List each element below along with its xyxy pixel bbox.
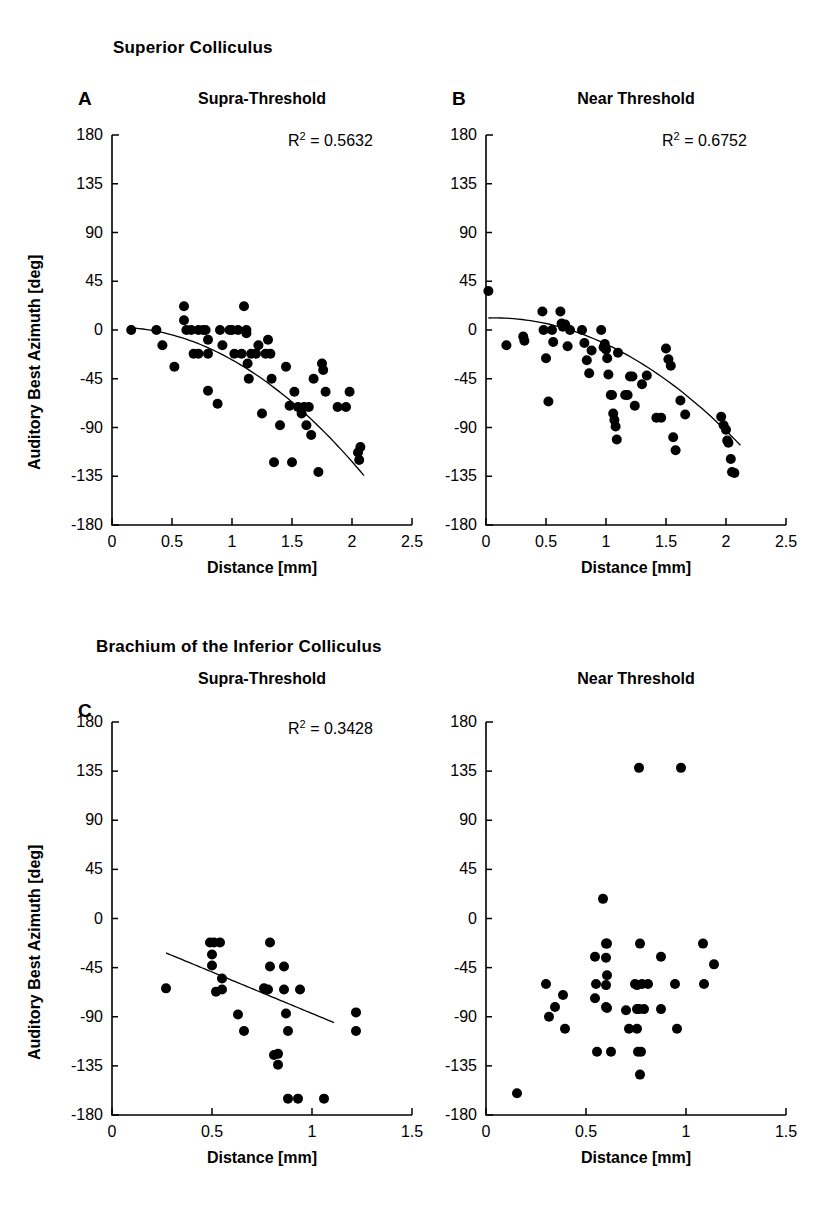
data-point	[217, 974, 227, 984]
data-point	[207, 960, 217, 970]
data-point	[582, 355, 592, 365]
ytick-label: 45	[459, 860, 477, 878]
data-point	[579, 338, 589, 348]
data-point	[642, 371, 652, 381]
data-point	[591, 979, 601, 989]
data-point	[637, 379, 647, 389]
data-point	[483, 286, 493, 296]
data-point	[193, 349, 203, 359]
data-point	[501, 340, 511, 350]
data-point	[729, 468, 739, 478]
plot-canvas-b	[486, 135, 816, 545]
data-point	[243, 359, 253, 369]
ytick-label: 45	[85, 860, 103, 878]
data-point	[251, 349, 261, 359]
ytick-label: 0	[468, 910, 477, 928]
data-point	[602, 1003, 612, 1013]
ytick-label: 135	[450, 762, 477, 780]
ytick-label: 45	[85, 272, 103, 290]
data-point	[263, 984, 273, 994]
data-point	[215, 938, 225, 948]
data-point	[630, 401, 640, 411]
data-point	[355, 442, 365, 452]
data-point	[341, 402, 351, 412]
data-point	[319, 1094, 329, 1104]
data-point	[283, 1026, 293, 1036]
data-point	[550, 1002, 560, 1012]
data-point	[590, 993, 600, 1003]
plot-canvas-c	[112, 722, 442, 1135]
data-point	[606, 1047, 616, 1057]
data-point	[169, 362, 179, 372]
data-point	[565, 325, 575, 335]
ytick-label: -135	[445, 467, 477, 485]
ytick-label: -135	[445, 1057, 477, 1075]
data-point	[203, 349, 213, 359]
data-point	[217, 340, 227, 350]
data-point	[543, 397, 553, 407]
data-point	[541, 979, 551, 989]
ytick-label: -90	[454, 1008, 477, 1026]
data-point	[287, 457, 297, 467]
data-point	[241, 328, 251, 338]
data-point	[179, 301, 189, 311]
data-point	[269, 457, 279, 467]
data-point	[698, 939, 708, 949]
panel-title-a: Supra-Threshold	[112, 90, 412, 108]
data-point	[273, 1049, 283, 1059]
data-point	[611, 421, 621, 431]
panel-title-d: Near Threshold	[486, 670, 786, 688]
data-point	[239, 301, 249, 311]
data-point	[603, 369, 613, 379]
data-point	[301, 420, 311, 430]
data-point	[726, 454, 736, 464]
section-title-superior-colliculus: Superior Colliculus	[113, 38, 273, 58]
ytick-label: 0	[94, 321, 103, 339]
xaxis-title: Distance [mm]	[486, 559, 786, 577]
yaxis-title-bottom: Auditory Best Azimuth [deg]	[26, 845, 44, 1060]
ytick-label: 90	[459, 224, 477, 242]
scatter-plot-panel-d: 18013590450-45-90-135-18000.511.5Distanc…	[486, 722, 786, 1115]
data-point	[666, 361, 676, 371]
data-point	[676, 763, 686, 773]
ytick-label: 45	[459, 272, 477, 290]
data-point	[601, 953, 611, 963]
ytick-label: -45	[80, 370, 103, 388]
xaxis-title: Distance [mm]	[486, 1149, 786, 1167]
data-point	[203, 335, 213, 345]
data-point	[313, 467, 323, 477]
data-point	[587, 346, 597, 356]
data-point	[668, 432, 678, 442]
ytick-label: 0	[94, 910, 103, 928]
data-point	[201, 325, 211, 335]
data-point	[179, 315, 189, 325]
ytick-label: -135	[71, 1057, 103, 1075]
panel-letter-b: B	[452, 88, 466, 110]
data-point	[265, 349, 275, 359]
data-point	[285, 401, 295, 411]
ytick-label: -45	[454, 370, 477, 388]
data-point	[716, 412, 726, 422]
data-point	[512, 1088, 522, 1098]
data-point	[602, 970, 612, 980]
data-point	[643, 979, 653, 989]
data-point	[596, 325, 606, 335]
ytick-label: -45	[454, 959, 477, 977]
data-point	[279, 984, 289, 994]
data-point	[621, 1005, 631, 1015]
axis-spine	[112, 722, 412, 1115]
data-point	[126, 325, 136, 335]
ytick-label: -180	[71, 1106, 103, 1124]
data-point	[541, 353, 551, 363]
data-point	[306, 430, 316, 440]
data-point	[239, 1026, 249, 1036]
figure-root: Superior Colliculus Brachium of the Infe…	[0, 0, 835, 1225]
data-point	[217, 984, 227, 994]
panel-title-c: Supra-Threshold	[112, 670, 412, 688]
data-point	[318, 365, 328, 375]
ytick-label: -180	[445, 516, 477, 534]
plot-canvas-d	[486, 722, 816, 1135]
ytick-label: -180	[445, 1106, 477, 1124]
data-point	[544, 1012, 554, 1022]
data-point	[577, 325, 587, 335]
